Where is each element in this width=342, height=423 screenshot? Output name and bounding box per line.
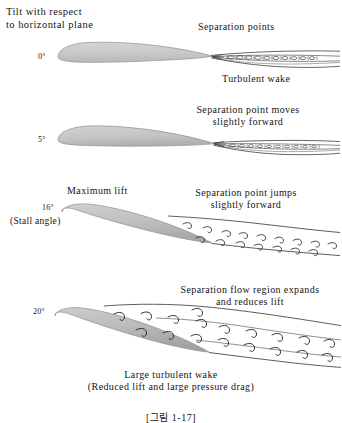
separation-eddies-16deg — [183, 223, 337, 256]
wake-upper-boundary-0deg — [211, 51, 340, 56]
stall-angle-label: (Stall angle) — [10, 216, 61, 228]
wake-lower-boundary-20deg — [209, 353, 341, 368]
wake-upper-boundary-16deg — [168, 216, 340, 233]
turbulent-wake-label: Turbulent wake — [222, 73, 290, 85]
airfoil-shape-0deg — [58, 42, 212, 62]
airfoil-shape-20deg — [55, 308, 209, 352]
separation-expands-label: Separation flow region expands and reduc… — [160, 284, 340, 308]
large-turbulent-wake-label: Large turbulent wake (Reduced lift and l… — [31, 369, 311, 393]
separation-jumps-label: Separation point jumps slightly forward — [172, 187, 320, 211]
panel-20deg — [55, 304, 341, 367]
figure-caption: [그림 1-17] — [0, 409, 342, 423]
panel-0deg — [58, 42, 340, 67]
angle-label-16deg: 16° — [42, 203, 54, 213]
header-note: Tilt with respect to horizontal plane — [6, 6, 93, 32]
separation-points-label: Separation points — [198, 21, 275, 33]
maximum-lift-label: Maximum lift — [67, 185, 128, 197]
wake-lower-boundary-16deg — [212, 244, 340, 256]
angle-label-20deg: 20° — [33, 307, 45, 317]
airfoil-shape-5deg — [58, 126, 214, 146]
angle-label-5deg: 5° — [38, 135, 46, 145]
wake-internal-band-lower-20deg — [196, 340, 341, 357]
panel-16deg — [62, 204, 340, 256]
separation-moves-label: Separation point moves slightly forward — [173, 104, 323, 128]
airfoil-stall-diagram: Tilt with respect to horizontal plane 0°… — [0, 0, 342, 423]
angle-label-0deg: 0° — [38, 52, 46, 62]
wake-upper-boundary-5deg — [213, 140, 340, 142]
panel-5deg — [58, 126, 340, 155]
